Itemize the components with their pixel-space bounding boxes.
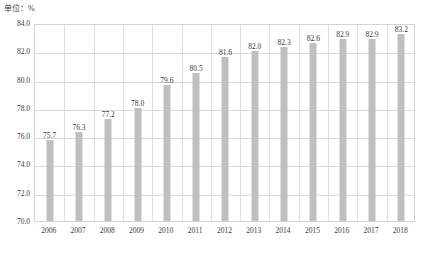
bar-slot: 82.3 xyxy=(269,25,298,221)
bar-slot: 82.0 xyxy=(240,25,269,221)
y-axis-tick-label: 82.0 xyxy=(4,48,30,56)
bar-value-label: 76.3 xyxy=(72,123,85,132)
bar[interactable] xyxy=(134,108,141,221)
bar-slot: 81.6 xyxy=(211,25,240,221)
x-axis-tick-label: 2012 xyxy=(210,226,239,235)
x-axis-tick-label: 2015 xyxy=(298,226,327,235)
bar[interactable] xyxy=(398,34,405,221)
bar-value-label: 82.0 xyxy=(248,42,261,51)
y-axis-tick-label: 80.0 xyxy=(4,77,30,85)
bar-slot: 82.9 xyxy=(328,25,357,221)
y-axis-tick-label: 74.0 xyxy=(4,161,30,169)
y-axis-unit-label: 单位：% xyxy=(4,3,35,14)
x-axis-tick-label: 2007 xyxy=(63,226,92,235)
bar-slot: 75.7 xyxy=(35,25,64,221)
bar-slot: 80.5 xyxy=(182,25,211,221)
bar-value-label: 82.3 xyxy=(278,38,291,47)
bar[interactable] xyxy=(105,119,112,221)
bar-slot: 82.6 xyxy=(299,25,328,221)
x-axis-tick-label: 2009 xyxy=(122,226,151,235)
x-axis-tick-label: 2017 xyxy=(356,226,385,235)
bar-slot: 77.2 xyxy=(94,25,123,221)
bar[interactable] xyxy=(310,43,317,221)
bar-value-label: 81.6 xyxy=(219,48,232,57)
bar-value-label: 79.6 xyxy=(160,76,173,85)
bar-value-label: 80.5 xyxy=(190,64,203,73)
x-axis-tick-label: 2006 xyxy=(34,226,63,235)
bar[interactable] xyxy=(369,39,376,221)
bar-slot: 76.3 xyxy=(64,25,93,221)
bar[interactable] xyxy=(281,47,288,221)
bar-value-label: 83.2 xyxy=(395,25,408,34)
bar-chart-figure: 单位：% 75.776.377.278.079.680.581.682.082.… xyxy=(0,0,426,255)
y-axis-tick-label: 78.0 xyxy=(4,105,30,113)
y-axis-tick-label: 72.0 xyxy=(4,190,30,198)
bar-value-label: 77.2 xyxy=(102,110,115,119)
bar-slot: 83.2 xyxy=(387,25,416,221)
x-axis-tick-label: 2011 xyxy=(181,226,210,235)
x-axis-tick-label: 2018 xyxy=(386,226,415,235)
bar[interactable] xyxy=(75,132,82,221)
x-axis-tick-label: 2016 xyxy=(327,226,356,235)
x-axis-tick-label: 2008 xyxy=(93,226,122,235)
y-axis-tick-label: 76.0 xyxy=(4,133,30,141)
plot-area: 75.776.377.278.079.680.581.682.082.382.6… xyxy=(34,24,415,222)
bar-value-label: 78.0 xyxy=(131,99,144,108)
y-axis-tick-label: 84.0 xyxy=(4,20,30,28)
bar[interactable] xyxy=(222,57,229,221)
bar-value-label: 82.9 xyxy=(336,30,349,39)
bar-slot: 82.9 xyxy=(357,25,386,221)
x-axis-tick-label: 2013 xyxy=(239,226,268,235)
y-axis-tick-label: 70.0 xyxy=(4,218,30,226)
bar[interactable] xyxy=(339,39,346,221)
bar-value-label: 75.7 xyxy=(43,131,56,140)
bar[interactable] xyxy=(46,140,53,221)
bar[interactable] xyxy=(251,51,258,221)
bar[interactable] xyxy=(163,85,170,221)
bar-value-label: 82.6 xyxy=(307,34,320,43)
bar-slot: 78.0 xyxy=(123,25,152,221)
x-axis-tick-label: 2014 xyxy=(268,226,297,235)
x-axis-tick-label: 2010 xyxy=(151,226,180,235)
bar-slot: 79.6 xyxy=(152,25,181,221)
bar-value-label: 82.9 xyxy=(365,30,378,39)
bar[interactable] xyxy=(193,73,200,222)
